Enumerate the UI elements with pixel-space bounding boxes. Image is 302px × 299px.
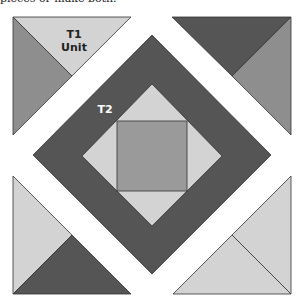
center-square — [117, 121, 187, 191]
label-t1: T1 — [66, 28, 81, 41]
label-t2: T2 — [97, 103, 112, 116]
label-unit: Unit — [61, 41, 87, 54]
quilt-block-diagram: T1 Unit T2 — [0, 0, 302, 299]
